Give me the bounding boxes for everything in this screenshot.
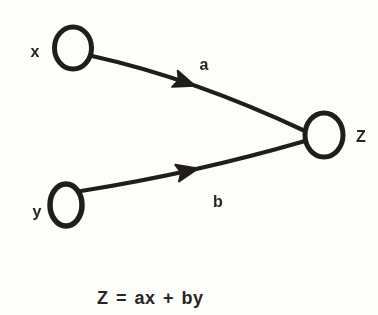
edge-b-arrowhead-icon — [175, 160, 199, 181]
edge-a-label: a — [200, 56, 209, 73]
figure-canvas: x y Z a b Z = ax + by — [0, 0, 378, 315]
equation: Z = ax + by — [97, 289, 204, 307]
edge-b-label: b — [213, 193, 223, 210]
node-x-label: x — [31, 43, 40, 60]
node-x-circle — [55, 27, 92, 69]
edge-y-to-z-line — [81, 141, 305, 191]
edge-x-to-z-line — [92, 56, 305, 131]
edge-a-arrowhead-icon — [172, 71, 197, 94]
node-z-circle — [305, 113, 343, 157]
signal-flow-graph: x y Z a b — [0, 0, 378, 315]
node-y-label: y — [33, 203, 42, 220]
node-y-circle — [50, 184, 82, 226]
node-z-label: Z — [356, 128, 366, 145]
